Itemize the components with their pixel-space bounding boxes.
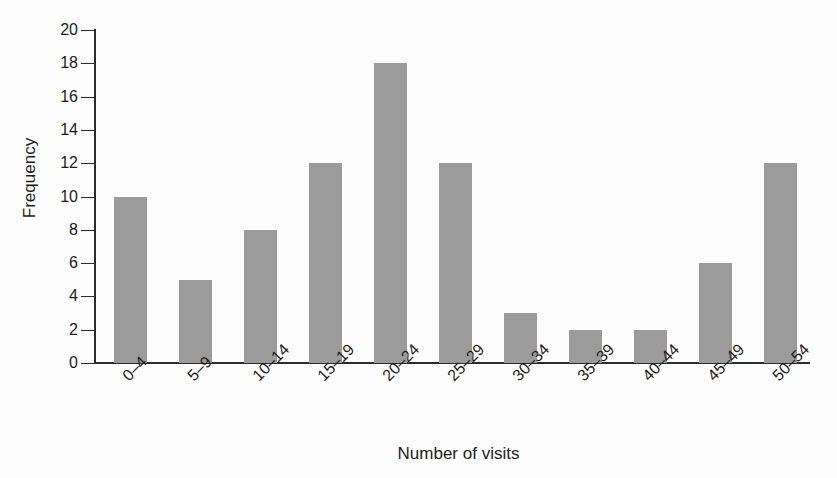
y-axis-tick: [81, 363, 94, 364]
histogram-figure: Frequency 02468101214161820 Number of vi…: [0, 0, 837, 478]
y-axis-tick: [81, 263, 94, 264]
bar[interactable]: [179, 280, 212, 363]
y-axis-tick: [81, 163, 94, 164]
y-axis-tick: [81, 230, 94, 231]
y-axis-tick: [81, 63, 94, 64]
y-axis-tick-label: 14: [38, 122, 78, 138]
bar[interactable]: [374, 63, 407, 363]
x-axis-title-text: Number of visits: [398, 444, 520, 464]
y-axis-tick: [81, 296, 94, 297]
y-axis-tick-label: 4: [38, 288, 78, 304]
y-axis-tick-label: 8: [38, 222, 78, 238]
y-axis-tick: [81, 30, 94, 31]
bar[interactable]: [439, 163, 472, 363]
y-axis-tick: [81, 197, 94, 198]
bar[interactable]: [114, 197, 147, 364]
y-axis-tick-label: 10: [38, 189, 78, 205]
y-axis-tick: [81, 130, 94, 131]
y-axis-tick-label: 12: [38, 155, 78, 171]
y-axis-tick-label: 16: [38, 89, 78, 105]
y-axis-tick-label: 6: [38, 255, 78, 271]
y-axis-tick-label: 2: [38, 322, 78, 338]
y-axis-tick-label: 18: [38, 55, 78, 71]
plot-area: [95, 30, 810, 363]
bar[interactable]: [244, 230, 277, 363]
y-axis-tick: [81, 330, 94, 331]
y-axis-tick-label: 0: [38, 355, 78, 371]
y-axis-tick-label: 20: [38, 22, 78, 38]
y-axis-tick-labels: 02468101214161820: [32, 0, 78, 478]
bar[interactable]: [764, 163, 797, 363]
y-axis-tick: [81, 97, 94, 98]
x-axis-title: Number of visits: [0, 444, 837, 464]
bar[interactable]: [309, 163, 342, 363]
